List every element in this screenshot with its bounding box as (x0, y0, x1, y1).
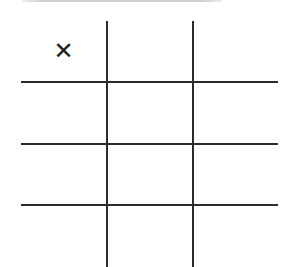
cell-2-0[interactable] (21, 145, 106, 204)
cell-3-1[interactable] (108, 206, 192, 267)
cell-2-1[interactable] (108, 145, 192, 204)
cell-0-1[interactable] (108, 21, 192, 81)
cell-1-2[interactable] (194, 83, 278, 143)
cell-2-2[interactable] (194, 145, 278, 204)
cell-0-0[interactable]: ✕ (21, 21, 106, 81)
cell-0-2[interactable] (194, 21, 278, 81)
cell-1-1[interactable] (108, 83, 192, 143)
cell-3-2[interactable] (194, 206, 278, 267)
cell-1-0[interactable] (21, 83, 106, 143)
cell-3-0[interactable] (21, 206, 106, 267)
x-mark-icon: ✕ (53, 39, 73, 63)
game-board: ✕ (0, 0, 295, 267)
